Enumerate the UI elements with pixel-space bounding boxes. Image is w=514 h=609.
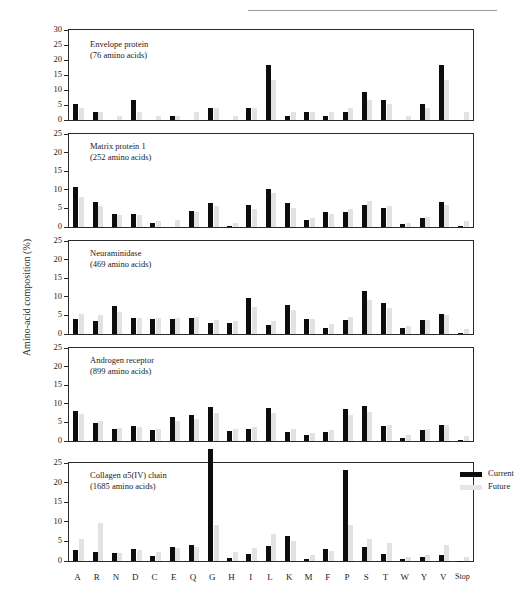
y-tick-mark xyxy=(64,315,68,316)
bar-future xyxy=(348,415,353,441)
y-tick-label: 10 xyxy=(54,398,63,408)
bar-current xyxy=(112,429,117,441)
bar-future xyxy=(310,555,315,561)
bar-group xyxy=(184,463,203,561)
bar-group xyxy=(435,134,454,227)
bar-group xyxy=(319,134,338,227)
bar-future xyxy=(137,112,142,120)
bar-current xyxy=(131,318,136,334)
y-axis-ticks: 051015202530 xyxy=(0,29,68,121)
bar-current xyxy=(227,431,232,441)
bar-current xyxy=(304,112,309,120)
y-tick-mark xyxy=(64,105,68,106)
bar-group xyxy=(281,463,300,561)
y-tick-mark xyxy=(64,45,68,46)
bar-current xyxy=(285,536,290,561)
bar-future xyxy=(252,427,257,441)
bar-current xyxy=(458,333,463,334)
y-tick-mark xyxy=(64,403,68,404)
bar-future xyxy=(252,209,257,227)
bar-group xyxy=(69,30,88,120)
bar-future xyxy=(271,321,276,334)
bar-future xyxy=(214,525,219,561)
bar-group xyxy=(415,134,434,227)
bar-current xyxy=(170,319,175,334)
bar-future xyxy=(291,541,296,561)
bar-future xyxy=(387,425,392,441)
bar-group xyxy=(184,241,203,334)
bar-group xyxy=(358,30,377,120)
panel-5: Collagen α5(IV) chain(1685 amino acids)0… xyxy=(68,462,474,562)
y-tick-mark xyxy=(64,208,68,209)
bar-group xyxy=(242,348,261,441)
bar-group xyxy=(358,463,377,561)
bar-current xyxy=(420,430,425,441)
bar-group xyxy=(223,463,242,561)
bar-future xyxy=(444,205,449,227)
y-tick-label: 0 xyxy=(58,555,62,565)
panel-title: Androgen receptor(899 amino acids) xyxy=(90,355,154,377)
bar-group xyxy=(300,30,319,120)
bar-current xyxy=(150,223,155,227)
bar-current xyxy=(227,323,232,334)
bar-future xyxy=(406,326,411,334)
bar-current xyxy=(400,224,405,227)
bar-future xyxy=(425,217,430,227)
bar-group xyxy=(223,348,242,441)
bar-group xyxy=(69,241,88,334)
bar-group xyxy=(300,463,319,561)
bar-future xyxy=(252,108,257,120)
panel-title: Matrix protein 1(252 amino acids) xyxy=(90,141,151,163)
bar-group xyxy=(338,134,357,227)
bar-group xyxy=(300,348,319,441)
bar-current xyxy=(93,202,98,227)
header-rule xyxy=(248,10,497,11)
bar-future xyxy=(175,116,180,120)
panel-title: Envelope protein(76 amino acids) xyxy=(90,39,148,61)
bar-future xyxy=(329,324,334,334)
bar-current xyxy=(131,549,136,561)
bar-future xyxy=(233,321,238,334)
bar-current xyxy=(439,65,444,120)
bar-future xyxy=(387,543,392,561)
bar-group xyxy=(396,463,415,561)
bar-future xyxy=(387,308,392,334)
bar-group xyxy=(281,134,300,227)
panel-title-name: Collagen α5(IV) chain xyxy=(90,470,167,480)
bar-future xyxy=(79,108,84,120)
y-axis-ticks: 0510152025 xyxy=(0,240,68,335)
y-tick-mark xyxy=(64,134,68,135)
bar-future xyxy=(444,425,449,441)
bar-current xyxy=(131,426,136,441)
bar-group xyxy=(338,463,357,561)
bar-group xyxy=(377,241,396,334)
bar-current xyxy=(439,555,444,561)
bar-current xyxy=(246,298,251,334)
bar-current xyxy=(93,552,98,561)
bar-current xyxy=(323,432,328,441)
bar-future xyxy=(291,112,296,120)
panel-title-length: (1685 amino acids) xyxy=(90,481,167,492)
y-tick-mark xyxy=(64,521,68,522)
y-tick-mark xyxy=(64,422,68,423)
bar-group xyxy=(377,134,396,227)
bar-future xyxy=(406,557,411,561)
bar-group xyxy=(261,241,280,334)
bar-group xyxy=(435,30,454,120)
y-tick-mark xyxy=(64,482,68,483)
bar-group xyxy=(165,134,184,227)
bar-future xyxy=(79,314,84,334)
bar-current xyxy=(458,226,463,227)
bar-current xyxy=(362,205,367,227)
bar-current xyxy=(400,328,405,334)
y-tick-mark xyxy=(64,75,68,76)
bar-group xyxy=(319,348,338,441)
bar-future xyxy=(310,112,315,120)
bar-future xyxy=(310,319,315,334)
bar-future xyxy=(233,552,238,561)
y-tick-label: 10 xyxy=(54,291,63,301)
bar-group xyxy=(242,241,261,334)
bar-future xyxy=(329,214,334,227)
y-tick-label: 15 xyxy=(54,496,63,506)
bar-current xyxy=(93,321,98,334)
